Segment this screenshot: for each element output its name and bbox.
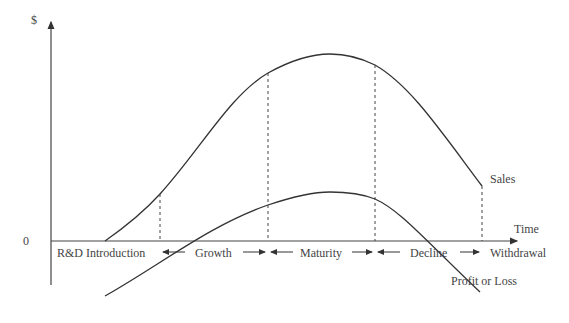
- sales-curve: [105, 54, 482, 241]
- profit-label: Profit or Loss: [451, 275, 517, 287]
- sales-label: Sales: [490, 173, 515, 185]
- profit-curve: [105, 192, 480, 296]
- stage-maturity: Maturity: [300, 247, 342, 259]
- origin-label: 0: [23, 235, 29, 247]
- y-axis-label: $: [31, 14, 37, 26]
- stage-decline: Decline: [410, 247, 447, 259]
- stage-rd-introduction: R&D Introduction: [57, 247, 145, 259]
- stage-withdrawal: Withdrawal: [490, 247, 546, 259]
- x-axis-label: Time: [514, 223, 539, 235]
- stage-growth: Growth: [195, 247, 232, 259]
